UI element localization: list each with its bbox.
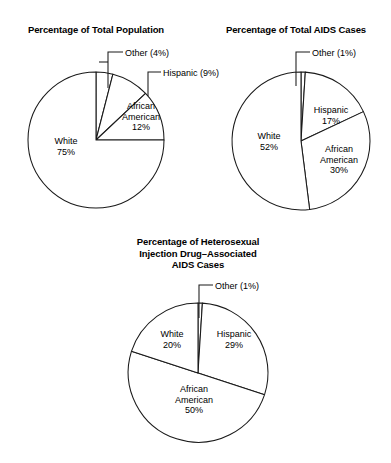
slice-label-white-heterosexual-injection-drug-aids-cases: White 20% [146,329,198,350]
slice-label-hispanic-heterosexual-injection-drug-aids-cases: Hispanic 29% [206,329,262,350]
pie-slice-other [96,72,113,140]
pie-slice-other [198,303,202,373]
slice-label-african-american-total-population: African American 12% [112,101,170,133]
slice-label-white-total-aids-cases: White 52% [243,131,295,152]
slice-label-hispanic-total-aids-cases: Hispanic 17% [303,105,359,126]
leader-line-other-total-aids-cases [296,52,310,86]
slice-label-african-american-total-aids-cases: African American 30% [310,144,368,176]
slice-label-african-american-heterosexual-injection-drug-aids-cases: African American 50% [163,384,225,416]
callout-leader-lines [99,52,310,318]
leader-line-hispanic-total-population [148,72,161,96]
callout-label-other-total-population: Other (4%) [125,48,169,59]
chart-title-total-aids-cases: Percentage of Total AIDS Cases [206,24,386,36]
chart-title-total-population: Percentage of Total Population [4,24,188,36]
callout-label-other-total-aids-cases: Other (1%) [312,48,356,59]
leader-line-other-total-population [108,52,123,88]
callout-label-other-heterosexual-injection-drug-aids-cases: Other (1%) [215,281,259,292]
pie-slices-heterosexual-injection-drug-aids-cases [128,303,268,442]
callout-label-hispanic-total-population: Hispanic (9%) [163,68,219,79]
chart-title-heterosexual-injection-drug-aids-cases: Percentage of Heterosexual Injection Dru… [108,236,288,271]
leader-line-other-heterosexual [199,285,213,318]
slice-label-white-total-population: White 75% [38,136,94,157]
pie-chart-figure: Percentage of Total Population Percentag… [0,0,391,463]
